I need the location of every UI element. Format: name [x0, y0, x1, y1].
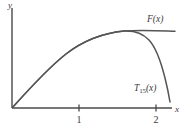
curve-label-t15-arg: (x) [146, 83, 157, 93]
curve-label-t15: T15(x) [134, 84, 156, 95]
x-tick-label-2: 2 [148, 115, 164, 125]
x-axis-label: x [175, 105, 179, 114]
chart-figure: y x 1 2 F(x) T15(x) [0, 0, 184, 132]
curve-label-f: F(x) [147, 15, 163, 25]
curve-t15 [13, 31, 171, 108]
y-axis-label: y [8, 1, 12, 10]
curve-label-t15-subscript: 15 [139, 87, 146, 95]
x-tick-label-1: 1 [71, 115, 87, 125]
